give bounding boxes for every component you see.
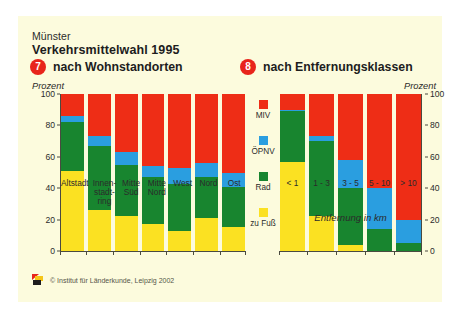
y-tick-100: 100 xyxy=(41,89,55,99)
x-tick-label: Nord xyxy=(198,179,220,207)
legend-swatch-icon xyxy=(259,100,268,109)
y-tick-100: 100 xyxy=(430,89,444,99)
x-tick-label: West xyxy=(172,179,194,207)
y-tick-60: 60 xyxy=(45,152,55,162)
x-tick-mark xyxy=(307,251,308,255)
bar-segment-zu-fuß xyxy=(338,245,363,251)
bar-by-residence-4 xyxy=(168,94,191,251)
bar-segment-öpnv xyxy=(396,220,421,244)
bar-segment-rad xyxy=(367,229,392,251)
y-tick-40: 40 xyxy=(430,183,440,193)
bar-segment-öpnv xyxy=(115,152,138,165)
bar-by-residence-5 xyxy=(195,94,218,251)
footer: © Institut für Länderkunde, Leipzig 2002 xyxy=(32,274,174,286)
x-tick-mark xyxy=(166,251,167,255)
x-tick-mark xyxy=(60,251,61,255)
x-tick-label: MitteNord xyxy=(146,179,168,207)
copyright-text: © Institut für Länderkunde, Leipzig 2002 xyxy=(50,277,174,284)
bar-by-distance-class-3 xyxy=(367,94,392,251)
bar-by-distance-class-2 xyxy=(338,94,363,251)
x-tick-mark xyxy=(336,251,337,255)
right-chart-y-axis xyxy=(421,94,422,252)
bar-segment-zu-fuß xyxy=(195,218,218,251)
bar-segment-zu-fuß xyxy=(142,224,165,251)
bar-segment-öpnv xyxy=(88,136,111,145)
left-panel-heading: 7 nach Wohnstandorten xyxy=(30,59,183,75)
left-chart-bars xyxy=(61,94,245,251)
y-tick-0: 0 xyxy=(50,246,55,256)
x-tick-label: < 1 xyxy=(280,179,305,188)
bar-segment-miv xyxy=(88,94,111,136)
x-tick-label: 3 - 5 xyxy=(338,179,363,188)
legend-item-öpnv[interactable]: ÖPNV xyxy=(248,136,278,156)
y-tick-60: 60 xyxy=(430,152,440,162)
chart-legend: MIVÖPNVRadzu Fuß xyxy=(248,100,278,244)
bar-segment-rad xyxy=(396,243,421,251)
bar-by-residence-1 xyxy=(88,94,111,251)
x-tick-mark xyxy=(421,251,422,255)
bar-segment-öpnv xyxy=(195,163,218,177)
x-tick-mark xyxy=(86,251,87,255)
bar-by-residence-0 xyxy=(61,94,84,251)
legend-swatch-icon xyxy=(259,136,268,145)
x-tick-mark xyxy=(140,251,141,255)
page-title: Verkehrsmittelwahl 1995 xyxy=(32,43,180,57)
bar-segment-rad xyxy=(61,122,84,171)
bar-by-distance-class-0 xyxy=(280,94,305,251)
x-tick-mark xyxy=(245,251,246,255)
bar-segment-rad xyxy=(280,111,305,161)
right-chart-bars xyxy=(280,94,421,251)
left-chart-x-axis xyxy=(60,251,245,252)
x-tick-mark xyxy=(193,251,194,255)
bar-segment-zu-fuß xyxy=(168,231,191,251)
right-panel-heading: 8 nach Entfernungsklassen xyxy=(240,59,413,75)
legend-label: MIV xyxy=(248,111,278,120)
publisher-logo-icon xyxy=(32,274,45,286)
bar-segment-miv xyxy=(168,94,191,168)
y-tick-80: 80 xyxy=(430,120,440,130)
bar-by-residence-2 xyxy=(115,94,138,251)
legend-item-miv[interactable]: MIV xyxy=(248,100,278,120)
chart-by-distance-class: 020406080100 xyxy=(280,94,421,251)
x-tick-mark xyxy=(113,251,114,255)
bar-segment-miv xyxy=(280,94,305,110)
bar-segment-miv xyxy=(61,94,84,116)
left-chart-x-labels: AltstadtInnen-stadt-ringMitteSüdMitteNor… xyxy=(61,179,245,207)
bar-segment-miv xyxy=(367,94,392,188)
left-panel-title: nach Wohnstandorten xyxy=(53,60,183,74)
y-tick-40: 40 xyxy=(45,183,55,193)
bar-by-distance-class-4 xyxy=(396,94,421,251)
legend-swatch-icon xyxy=(259,208,268,217)
bar-segment-öpnv xyxy=(142,166,165,177)
panel-number-badge-7: 7 xyxy=(30,59,46,75)
x-tick-label: Altstadt xyxy=(61,179,89,207)
chart-by-residence: 020406080100 xyxy=(61,94,245,251)
y-tick-0: 0 xyxy=(430,246,435,256)
legend-item-zu-fuß[interactable]: zu Fuß xyxy=(248,208,278,228)
bar-by-distance-class-1 xyxy=(309,94,334,251)
panel-number-badge-8: 8 xyxy=(240,59,256,75)
x-tick-mark xyxy=(279,251,280,255)
x-tick-label: 5 - 10 xyxy=(367,179,392,188)
legend-swatch-icon xyxy=(259,172,268,181)
x-tick-mark xyxy=(220,251,221,255)
x-tick-mark xyxy=(365,251,366,255)
x-tick-mark xyxy=(394,251,395,255)
x-tick-label: > 10 xyxy=(396,179,421,188)
x-tick-label: MitteSüd xyxy=(120,179,142,207)
bar-segment-miv xyxy=(309,94,334,136)
bar-segment-miv xyxy=(195,94,218,163)
right-chart-x-labels: < 11 - 33 - 55 - 10> 10 xyxy=(280,179,421,188)
bar-segment-miv xyxy=(142,94,165,166)
y-tick-80: 80 xyxy=(45,120,55,130)
bar-segment-miv xyxy=(222,94,245,173)
bar-segment-zu-fuß xyxy=(222,227,245,251)
bar-segment-zu-fuß xyxy=(115,216,138,251)
x-tick-label: 1 - 3 xyxy=(309,179,334,188)
legend-item-rad[interactable]: Rad xyxy=(248,172,278,192)
city-label: Münster xyxy=(32,30,71,42)
legend-label: ÖPNV xyxy=(248,147,278,156)
legend-label: Rad xyxy=(248,183,278,192)
bar-segment-miv xyxy=(338,94,363,160)
bar-segment-miv xyxy=(115,94,138,152)
